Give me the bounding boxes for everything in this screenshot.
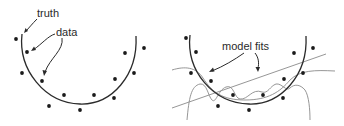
- model-fits-arrow-1: [212, 53, 244, 71]
- data-point: [132, 71, 136, 75]
- truth-curve: [22, 34, 137, 104]
- model-fits-arrowhead-1: [209, 68, 215, 73]
- data-point: [216, 104, 220, 108]
- model-fits-label: model fits: [222, 40, 270, 52]
- data-arrow-2: [45, 38, 62, 72]
- data-point: [184, 36, 188, 40]
- data-point: [282, 77, 286, 81]
- data-point: [78, 108, 82, 112]
- left-panel: truth data: [14, 7, 146, 112]
- data-point: [261, 93, 265, 97]
- data-point: [14, 37, 18, 41]
- overfit-curve: [187, 84, 310, 120]
- truth-label: truth: [37, 7, 59, 19]
- data-point: [113, 77, 117, 81]
- smooth-fit-curve: [172, 68, 335, 100]
- model-fits-arrow-2: [255, 53, 259, 68]
- right-panel: model fits: [172, 35, 335, 120]
- data-point: [247, 108, 251, 112]
- data-point: [209, 79, 213, 83]
- data-arrow-1: [33, 34, 55, 50]
- diagram-canvas: truth data model fits: [0, 0, 344, 126]
- data-point: [231, 93, 235, 97]
- data-arrowhead-1: [31, 47, 36, 52]
- data-label: data: [56, 26, 78, 38]
- data-point: [92, 93, 96, 97]
- data-point: [194, 50, 198, 54]
- data-point: [189, 71, 193, 75]
- data-point: [40, 79, 44, 83]
- data-point: [62, 93, 66, 97]
- data-point: [112, 96, 116, 100]
- data-point: [311, 46, 315, 50]
- data-point: [123, 51, 127, 55]
- data-point: [301, 71, 305, 75]
- data-point: [20, 71, 24, 75]
- data-point: [142, 46, 146, 50]
- model-fits-arrowhead-2: [256, 67, 261, 72]
- data-point: [281, 96, 285, 100]
- data-arrowhead-2: [43, 70, 48, 76]
- data-point: [25, 50, 29, 54]
- data-point: [47, 104, 51, 108]
- data-point: [292, 51, 296, 55]
